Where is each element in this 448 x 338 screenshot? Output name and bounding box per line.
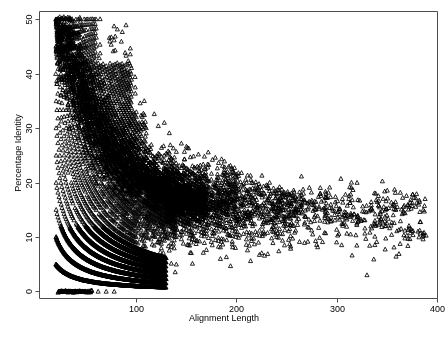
y-axis-title: Percentage Identity xyxy=(13,83,23,223)
scatter-plot-figure: Alignment Length Percentage Identity xyxy=(0,0,448,338)
plot-canvas xyxy=(0,0,448,338)
x-axis-title: Alignment Length xyxy=(0,313,448,323)
